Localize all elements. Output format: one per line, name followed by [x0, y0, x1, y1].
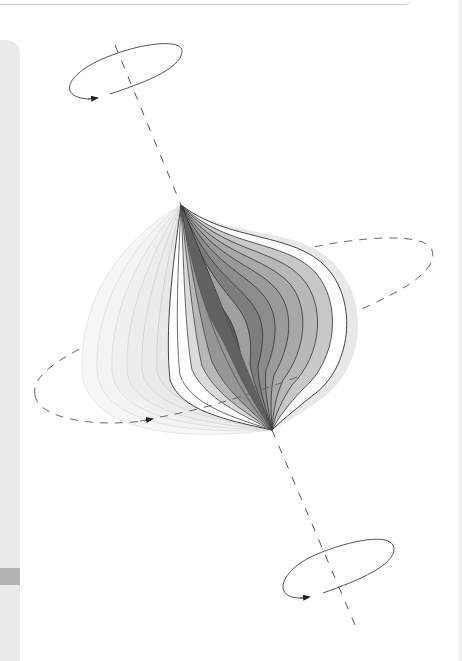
top-rotation-ellipse [69, 44, 182, 99]
bottom-rotation-ellipse [283, 539, 394, 598]
spindle-figure [0, 0, 462, 661]
top-rotation-arrow-icon [88, 98, 97, 99]
rotation-axis-top [115, 45, 181, 205]
bottom-rotation-arrow-icon [300, 597, 309, 598]
rotation-axis-bottom [272, 430, 358, 632]
